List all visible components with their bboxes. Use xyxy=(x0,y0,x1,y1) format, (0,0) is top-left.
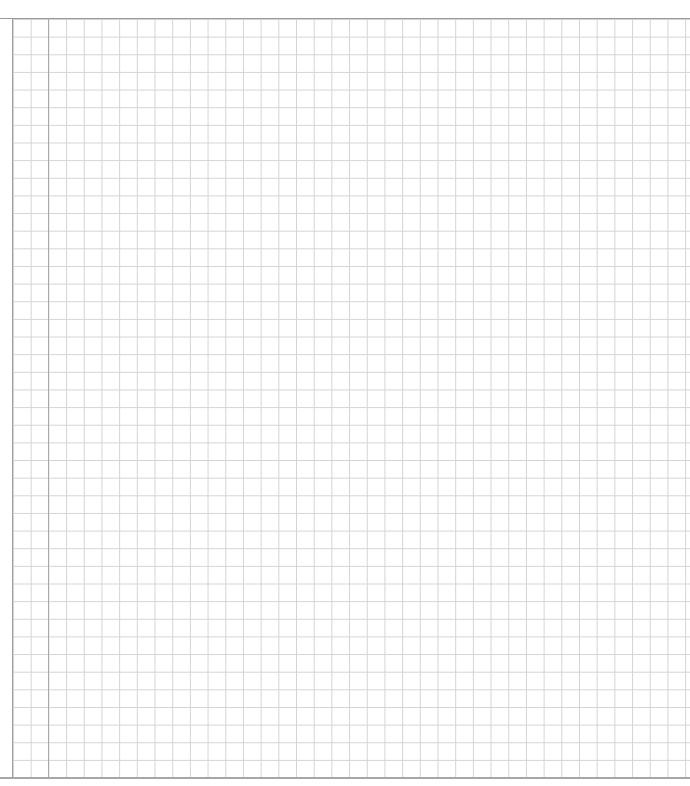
grid-paper xyxy=(13,19,690,778)
margin-line xyxy=(48,18,49,778)
top-border-line xyxy=(0,18,690,19)
bottom-border-line xyxy=(0,777,690,779)
left-border-line xyxy=(12,18,13,778)
